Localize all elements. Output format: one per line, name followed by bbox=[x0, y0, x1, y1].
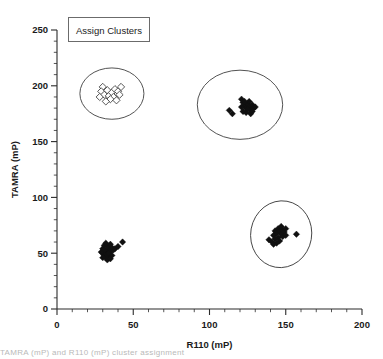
page-caption-partial: TAMRA (mP) and R110 (mP) cluster assignm… bbox=[0, 348, 383, 359]
x-tick-label: 50 bbox=[128, 319, 139, 330]
axes-group bbox=[51, 30, 362, 315]
x-tick-label: 100 bbox=[202, 319, 218, 330]
data-point-series-4 bbox=[293, 231, 299, 237]
legend-label: Assign Clusters bbox=[76, 25, 142, 36]
y-tick-label: 150 bbox=[32, 136, 48, 147]
plot-canvas: 050100150200050100150200250R110 (mP)TAMR… bbox=[0, 0, 383, 359]
y-tick-label: 200 bbox=[32, 80, 48, 91]
assign-clusters-legend[interactable]: Assign Clusters bbox=[68, 17, 150, 42]
ring-cluster-3 bbox=[197, 70, 282, 139]
y-tick-label: 100 bbox=[32, 192, 48, 203]
data-point-series-2 bbox=[119, 239, 125, 245]
scatter-plot-figure: 050100150200050100150200250R110 (mP)TAMR… bbox=[0, 0, 383, 359]
x-tick-label: 150 bbox=[278, 319, 294, 330]
y-tick-label: 0 bbox=[43, 303, 48, 314]
y-tick-label: 50 bbox=[37, 248, 48, 259]
x-tick-label: 0 bbox=[54, 319, 59, 330]
y-tick-label: 250 bbox=[32, 24, 48, 35]
y-axis-title: TAMRA (mP) bbox=[9, 141, 20, 198]
x-tick-label: 200 bbox=[354, 319, 370, 330]
axis-labels-group: 050100150200050100150200250R110 (mP)TAMR… bbox=[9, 24, 370, 350]
